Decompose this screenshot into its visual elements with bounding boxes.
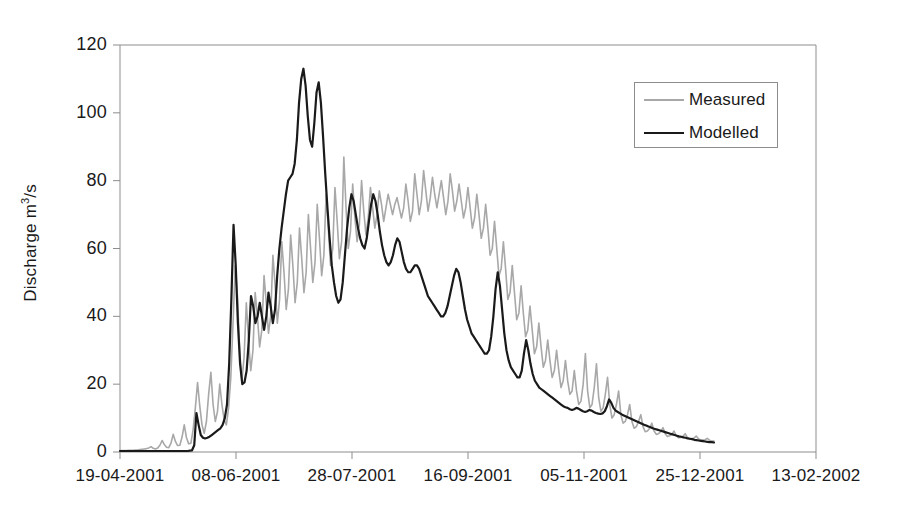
y-axis-title: Discharge m3/s [19, 143, 41, 343]
chart-legend: Measured Modelled [634, 82, 778, 148]
y-axis-tick-label: 120 [47, 34, 107, 55]
y-axis-tick-label: 80 [47, 170, 107, 191]
y-axis-tick-label: 100 [47, 102, 107, 123]
x-axis-tick-label: 13-02-2002 [746, 466, 886, 486]
plot-canvas [0, 0, 902, 518]
discharge-hydrograph-chart: Discharge m3/s 020406080100120 19-04-200… [0, 0, 902, 518]
legend-swatch-modelled [644, 132, 684, 134]
y-axis-title-base: Discharge m [21, 204, 40, 302]
y-axis-tick-label: 60 [47, 238, 107, 259]
legend-item-measured: Measured [635, 83, 777, 116]
y-axis-tick-label: 20 [47, 373, 107, 394]
legend-label-measured: Measured [689, 90, 765, 110]
y-axis-tick-label: 40 [47, 305, 107, 326]
y-axis-title-tail: /s [21, 184, 40, 198]
legend-label-modelled: Modelled [689, 123, 759, 143]
y-axis-title-exponent: 3 [19, 198, 31, 204]
y-axis-tick-label: 0 [47, 441, 107, 462]
legend-swatch-measured [644, 99, 684, 101]
legend-item-modelled: Modelled [635, 116, 777, 149]
